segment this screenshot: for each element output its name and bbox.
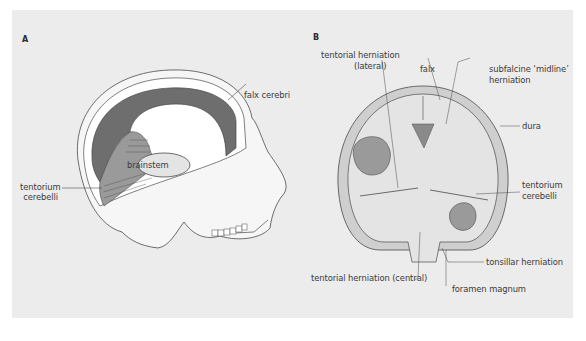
panel-b-letter: B [313,33,319,42]
label-tentorial-lateral-line2: (lateral) [354,61,386,71]
panel-a-letter: A [22,35,28,44]
label-tentorium-line2: cerebelli [20,192,58,202]
label-subfalcine-line1: subfalcine ‘midline’ [489,64,569,74]
label-brainstem: brainstem [127,160,169,170]
label-dura: dura [522,121,541,131]
label-tentorium-b-line1: tentorium [522,180,563,190]
label-tentorial-central: tentorial herniation (central) [311,273,427,283]
label-falx-cerebri: falx cerebri [244,90,290,100]
label-tonsillar-herniation: tonsillar herniation [486,257,563,267]
label-tentorial-lateral-line1: tentorial herniation [321,50,400,60]
label-falx: falx [420,64,435,74]
label-subfalcine-line2: herniation [489,75,531,85]
label-foramen-magnum: foramen magnum [452,284,526,294]
label-tentorium-line1: tentorium [20,182,58,192]
label-tentorium-b-line2: cerebelli [522,191,557,201]
